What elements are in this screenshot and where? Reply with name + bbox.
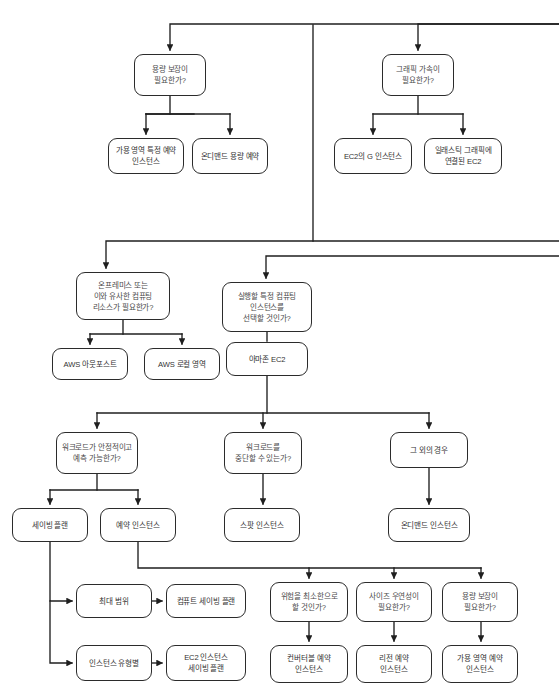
node-graphics-acceleration-question[interactable]: 그래픽 가속이 필요한가? [382, 54, 454, 96]
edge-ri-bus [138, 542, 481, 568]
flowchart-canvas: 용량 보장이 필요한가? 가용 영역 특정 예약 인스턴스 온디맨드 용량 예약… [0, 0, 559, 693]
node-max-scope[interactable]: 최대 범위 [76, 584, 152, 618]
node-amazon-ec2[interactable]: 아마존 EC2 [226, 342, 308, 376]
edge-sp-to-maxscope [50, 542, 72, 601]
node-capacity-guarantee-question[interactable]: 용량 보장이 필요한가? [134, 54, 206, 96]
edge-bus-top-left [170, 24, 559, 50]
node-az-specific-reserved-instance[interactable]: 가용 영역 특정 예약 인스턴스 [108, 138, 184, 174]
node-stable-predictable-question[interactable]: 워크로드가 안정적이고 예측 가능한가? [56, 432, 138, 474]
node-ondemand-instance[interactable]: 온디맨드 인스턴스 [388, 508, 470, 542]
node-interruptible-question[interactable]: 워크로드를 중단할 수 있는가? [224, 432, 302, 474]
node-elastic-graphics-ec2[interactable]: 일래스틱 그래픽에 연결된 EC2 [424, 138, 502, 174]
node-ec2-g-instance[interactable]: EC2의 G 인스턴스 [334, 138, 412, 174]
node-onpremises-question[interactable]: 온프레미스 또는 이와 유사한 컴퓨팅 리소스가 필요한가? [76, 272, 170, 320]
node-az-reserved-instance[interactable]: 가용 영역 예약 인스턴스 [442, 645, 518, 683]
node-size-flexibility-question[interactable]: 사이즈 우연성이 필요한가? [356, 582, 432, 622]
node-reserved-instance[interactable]: 예약 인스턴스 [100, 508, 176, 542]
node-aws-outposts[interactable]: AWS 아웃포스트 [52, 348, 128, 380]
node-savings-plan[interactable]: 세이빙 플랜 [12, 508, 88, 542]
node-by-instance-type[interactable]: 인스턴스 유형별 [76, 645, 152, 681]
edge-sp-to-insttype [50, 601, 72, 663]
node-specific-instance-question[interactable]: 실행할 특정 컴퓨팅 인스턴스를 선택할 것인가? [222, 282, 312, 332]
node-regional-reserved-instance[interactable]: 리전 예약 인스턴스 [356, 645, 432, 683]
edge-bus-mid-right [266, 256, 559, 278]
node-capacity-guarantee-question-2[interactable]: 용량 보장이 필요한가? [442, 582, 518, 622]
node-otherwise[interactable]: 그 외의 경우 [390, 432, 468, 468]
node-ondemand-capacity-reservation[interactable]: 온디맨드 용량 예약 [192, 138, 268, 174]
node-spot-instance[interactable]: 스팟 인스턴스 [224, 508, 300, 542]
node-aws-local-zones[interactable]: AWS 로컬 영역 [144, 348, 220, 380]
edge-bus-mid-left [106, 241, 559, 268]
node-convertible-reserved-instance[interactable]: 컨버터블 예약 인스턴스 [270, 645, 348, 683]
node-minimize-risk-question[interactable]: 위험을 최소한으로 할 것인가? [270, 582, 348, 622]
node-compute-savings-plan[interactable]: 컴퓨트 세이빙 플랜 [166, 584, 246, 618]
edge-bus-top-right [418, 24, 559, 50]
node-ec2-instance-savings-plan[interactable]: EC2 인스턴스 세이빙 플랜 [166, 645, 246, 681]
